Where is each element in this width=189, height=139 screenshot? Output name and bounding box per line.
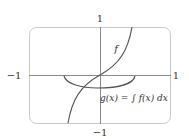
x-axis-left-label: −1 <box>7 70 22 81</box>
graph-diagram: 1 −1 −1 1 f g(x) = ∫ f(x) dx <box>0 0 189 139</box>
curve-g-label: g(x) = ∫ f(x) dx <box>100 93 168 103</box>
curve-f-label: f <box>113 43 120 54</box>
y-axis-bottom-label: −1 <box>93 127 108 138</box>
y-axis-top-label: 1 <box>97 13 103 24</box>
x-axis-right-label: 1 <box>173 70 179 81</box>
curve-g <box>64 76 135 88</box>
